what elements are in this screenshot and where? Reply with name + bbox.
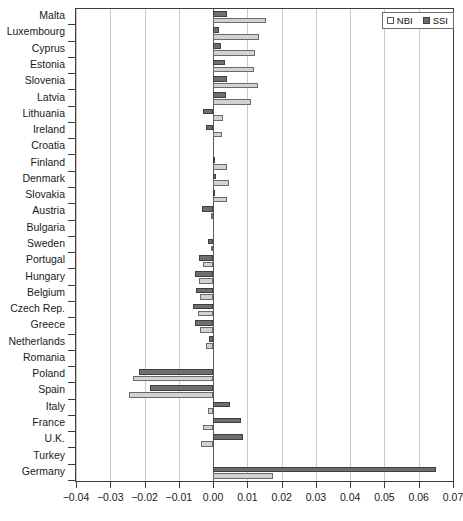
x-axis-label: −0.02	[131, 491, 158, 503]
legend-entry-nbi: NBI	[387, 15, 413, 26]
x-axis-tick	[213, 482, 214, 488]
legend: NBI SSI	[382, 12, 454, 29]
x-axis-label: −0.03	[97, 491, 124, 503]
legend-swatch-nbi-icon	[387, 17, 394, 24]
x-axis-label: 0.01	[237, 491, 257, 503]
x-axis-tick	[76, 482, 77, 488]
legend-label-nbi: NBI	[397, 15, 413, 26]
x-axis-label: 0.04	[340, 491, 360, 503]
bar-chart: MaltaLuxembourgCyprusEstoniaSloveniaLatv…	[0, 0, 463, 521]
x-axis-tick	[384, 482, 385, 488]
x-axis-tick	[453, 482, 454, 488]
x-axis-tick	[110, 482, 111, 488]
legend-swatch-ssi-icon	[423, 17, 430, 24]
legend-entry-ssi: SSI	[423, 15, 448, 26]
x-axis-label: 0.00	[203, 491, 223, 503]
x-axis-label: 0.05	[374, 491, 394, 503]
x-axis-label: 0.03	[306, 491, 326, 503]
x-axis-label: 0.02	[271, 491, 291, 503]
x-axis-labels: −0.04−0.03−0.02−0.010.000.010.020.030.04…	[0, 0, 463, 521]
x-axis-label: −0.01	[166, 491, 193, 503]
legend-label-ssi: SSI	[433, 15, 448, 26]
x-axis-label: −0.04	[63, 491, 90, 503]
x-axis-tick	[419, 482, 420, 488]
x-axis-tick	[179, 482, 180, 488]
x-axis-label: 0.07	[443, 491, 463, 503]
x-axis-tick	[282, 482, 283, 488]
x-axis-tick	[247, 482, 248, 488]
x-axis-tick	[316, 482, 317, 488]
x-axis-label: 0.06	[409, 491, 429, 503]
x-axis-tick	[145, 482, 146, 488]
x-axis-tick	[350, 482, 351, 488]
